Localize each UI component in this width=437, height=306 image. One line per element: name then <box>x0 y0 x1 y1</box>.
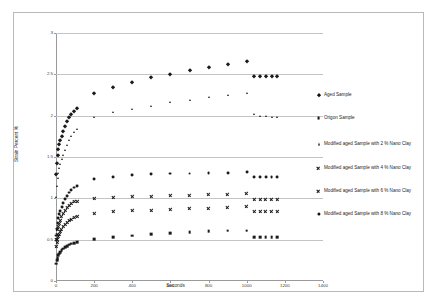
marker-glyph <box>317 117 320 120</box>
x-tick-mark <box>132 281 133 283</box>
data-point <box>276 175 279 178</box>
data-point <box>56 227 59 230</box>
data-point <box>65 194 68 197</box>
legend-marker-cross-thin-icon <box>315 187 322 195</box>
data-point <box>253 175 256 178</box>
chart-figure: 00.511.522.53 0200400600800100012001400 … <box>0 0 437 306</box>
data-point <box>55 234 58 237</box>
data-point <box>112 175 115 178</box>
legend-label: Aged Sample <box>324 93 352 98</box>
legend-item[interactable]: Origon Sample <box>315 114 355 122</box>
marker-glyph <box>317 166 321 170</box>
x-tick-mark <box>209 281 210 283</box>
x-tick-mark <box>285 281 286 283</box>
legend-marker-cross-icon <box>315 164 322 172</box>
marker-glyph <box>318 143 320 146</box>
data-point <box>245 170 248 173</box>
data-point <box>188 172 191 175</box>
marker-glyph <box>317 212 320 215</box>
legend-marker-triangle-icon <box>315 140 322 148</box>
data-point <box>62 202 65 205</box>
plot-inner: 00.511.522.53 0200400600800100012001400 <box>56 33 323 281</box>
legend-marker-square-icon <box>315 114 322 122</box>
x-tick-mark <box>56 281 57 283</box>
data-point <box>59 209 62 212</box>
data-point <box>93 178 96 181</box>
legend-item[interactable]: Aged Sample <box>315 91 352 99</box>
legend-label: Modified aged Sample with 8 % Nano Clay <box>324 212 411 217</box>
data-point <box>64 198 67 201</box>
marker-glyph <box>317 189 321 193</box>
data-point <box>150 173 153 176</box>
y-tick-label: 0 <box>51 279 53 283</box>
data-point <box>169 172 172 175</box>
marker-glyph <box>317 93 321 97</box>
x-tick-mark <box>323 281 324 283</box>
legend-item[interactable]: Modified aged Sample with 6 % Nano Clay <box>315 187 411 195</box>
data-point <box>58 213 61 216</box>
x-tick-label: 1400 <box>318 284 328 288</box>
y-tick-label: 2 <box>51 113 53 117</box>
data-point <box>60 206 63 209</box>
legend-label: Modified aged Sample with 4 % Nano Clay <box>324 166 411 171</box>
y-tick-label: 1 <box>51 196 53 200</box>
data-point <box>68 191 71 194</box>
y-tick-label: 3 <box>51 31 53 35</box>
legend-item[interactable]: Modified aged Sample with 4 % Nano Clay <box>315 164 411 172</box>
data-point <box>264 175 267 178</box>
legend-marker-diamond-icon <box>315 91 322 99</box>
chart-frame: 00.511.522.53 0200400600800100012001400 … <box>13 12 424 292</box>
legend-item[interactable]: Modified aged Sample with 8 % Nano Clay <box>315 210 411 218</box>
y-tick-label: 0.5 <box>47 237 53 241</box>
legend-label: Modified aged Sample with 6 % Nano Clay <box>324 189 411 194</box>
data-point <box>131 174 134 177</box>
data-series <box>56 33 323 281</box>
data-point <box>76 184 79 187</box>
data-point <box>259 175 262 178</box>
y-axis-title: Strain Percent % <box>15 126 20 162</box>
x-tick-mark <box>247 281 248 283</box>
data-point <box>207 171 210 174</box>
legend-item[interactable]: Modified aged Sample with 2 % Nano Clay <box>315 140 411 148</box>
data-point <box>270 175 273 178</box>
legend-marker-circle-icon <box>315 210 322 218</box>
data-point <box>57 217 60 220</box>
x-axis-title: Seconds <box>42 284 309 289</box>
y-tick-label: 1.5 <box>47 155 53 159</box>
plot-area: 00.511.522.53 0200400600800100012001400 <box>56 33 323 281</box>
legend-label: Origon Sample <box>324 116 355 121</box>
legend-label: Modified aged Sample with 2 % Nano Clay <box>324 142 411 147</box>
x-tick-mark <box>94 281 95 283</box>
data-point <box>56 222 59 225</box>
y-tick-label: 2.5 <box>47 72 53 76</box>
data-point <box>70 189 73 192</box>
data-point <box>226 171 229 174</box>
